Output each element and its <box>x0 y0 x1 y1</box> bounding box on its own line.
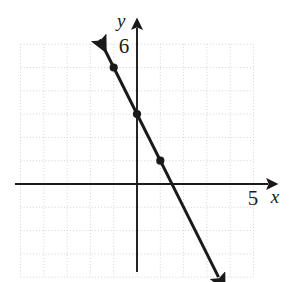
plotted-point <box>156 157 164 165</box>
y-axis-label: y <box>115 10 126 31</box>
x-axis-tick-label-5: 5 <box>248 186 259 210</box>
x-axis-label: x <box>270 186 280 207</box>
y-axis-tick-label-6: 6 <box>119 34 130 58</box>
plotted-point <box>110 63 118 71</box>
plotted-point <box>133 110 141 118</box>
coordinate-plane-figure: y 6 x 5 <box>0 0 296 282</box>
plotted-line-group <box>100 40 219 278</box>
graph-canvas: y 6 x 5 <box>0 0 296 282</box>
